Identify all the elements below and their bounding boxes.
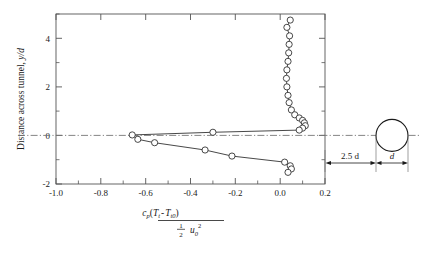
x-tick-label: -0.2 — [228, 188, 242, 198]
dimension-d: d — [376, 151, 408, 165]
series-line — [132, 20, 305, 172]
u-superscript: 2 — [198, 222, 201, 229]
data-point — [286, 33, 292, 39]
half-numerator: 1 — [179, 222, 183, 230]
y-axis-title-text: Distance across tunnel, — [16, 60, 26, 150]
minus-sign: - — [161, 208, 164, 218]
cylinder-schematic: 2.5 d d — [325, 119, 408, 172]
plot-frame — [56, 14, 325, 184]
paren-close: ) — [176, 208, 179, 219]
x-axis-title-denominator: 1 2 u02 — [177, 222, 201, 239]
svg-text:cp(Tt-Tt0): cp(Tt-Tt0) — [142, 208, 178, 219]
data-point — [287, 17, 293, 23]
x-tick-label: -1.0 — [49, 188, 64, 198]
x-tick-label: -0.4 — [183, 188, 198, 198]
data-point — [284, 84, 290, 90]
cylinder-circle — [376, 119, 408, 151]
u-subscript: 0 — [195, 230, 199, 237]
x-major-ticks — [56, 14, 325, 184]
data-point — [286, 41, 292, 47]
x-tick-labels: -1.0 -0.8 -0.6 -0.4 -0.2 0.0 0.2 — [49, 188, 331, 198]
data-point — [229, 153, 235, 159]
data-point — [210, 129, 216, 135]
data-point — [152, 140, 158, 146]
Tt-subscript: t — [158, 212, 160, 219]
x-tick-label: -0.8 — [94, 188, 109, 198]
y-tick-labels: 4 2 0 -2 — [43, 34, 51, 190]
data-point — [286, 100, 292, 106]
data-point — [283, 75, 289, 81]
data-point — [129, 132, 135, 138]
y-axis-title-symbol: y/d — [16, 48, 26, 61]
data-point — [285, 92, 291, 98]
data-point — [284, 24, 290, 30]
half-denominator: 2 — [179, 231, 183, 239]
data-series — [129, 17, 308, 175]
svg-text:u02: u02 — [190, 222, 201, 237]
dimension-label-2p5d: 2.5 d — [341, 151, 360, 161]
dimension-2p5d: 2.5 d — [326, 151, 377, 165]
data-point — [284, 67, 290, 73]
data-point — [202, 147, 208, 153]
data-point — [286, 50, 292, 56]
svg-text:Distance across tunnel, y/d: Distance across tunnel, y/d — [16, 48, 26, 150]
data-point — [135, 136, 141, 142]
y-tick-label: 2 — [46, 82, 51, 92]
data-point — [285, 169, 291, 175]
series-markers — [129, 17, 308, 175]
y-axis-title: Distance across tunnel, y/d — [16, 48, 26, 150]
data-point — [296, 127, 302, 133]
y-tick-label: 4 — [46, 34, 51, 44]
data-point — [282, 159, 288, 165]
x-tick-label: 0.2 — [319, 188, 330, 198]
y-tick-label: -2 — [43, 179, 51, 189]
x-tick-label: -0.6 — [139, 188, 154, 198]
dimension-label-d: d — [390, 151, 395, 161]
x-axis-title-numerator: cp(Tt-Tt0) — [142, 208, 178, 219]
data-point — [285, 58, 291, 64]
x-tick-label: 0.0 — [275, 188, 287, 198]
figure-root: -1.0 -0.8 -0.6 -0.4 -0.2 0.0 0.2 — [0, 0, 435, 256]
x-axis-title: cp(Tt-Tt0) 1 2 u02 — [142, 208, 224, 239]
